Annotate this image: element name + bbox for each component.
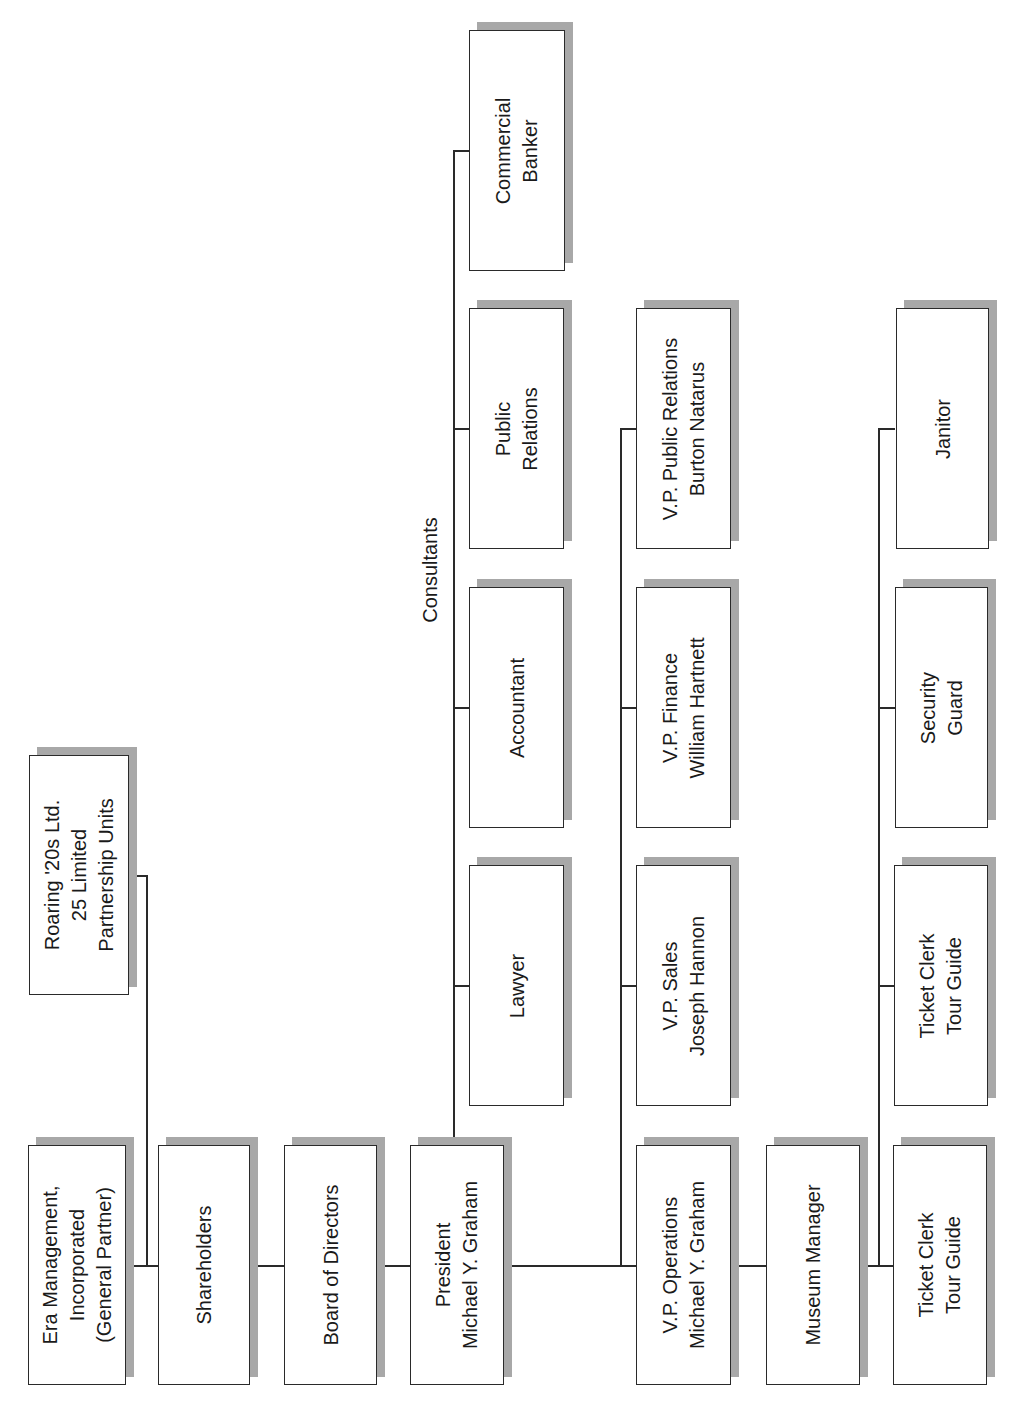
connector-vp-finance bbox=[620, 707, 637, 709]
staff-trunk-line bbox=[878, 428, 880, 1266]
node-president: President Michael Y. Graham bbox=[410, 1145, 504, 1385]
node-board-of-directors: Board of Directors bbox=[284, 1145, 377, 1385]
connector-janitor bbox=[878, 428, 895, 430]
node-security-guard: Security Guard bbox=[895, 587, 988, 828]
node-label: V.P. Public Relations Burton Natarus bbox=[657, 337, 711, 519]
node-label: V.P. Sales Joseph Hannon bbox=[657, 915, 711, 1055]
org-chart: Era Management, Incorporated (General Pa… bbox=[0, 0, 1020, 1424]
node-label: Janitor bbox=[929, 398, 956, 458]
node-label: V.P. Finance William Hartnett bbox=[657, 637, 711, 778]
node-label: Era Management, Incorporated (General Pa… bbox=[37, 1186, 118, 1345]
node-janitor: Janitor bbox=[896, 308, 989, 549]
node-label: Roaring '20s Ltd. 25 Limited Partnership… bbox=[39, 798, 120, 951]
node-vp-finance: V.P. Finance William Hartnett bbox=[636, 587, 731, 828]
connector-vp-pr bbox=[620, 428, 637, 430]
node-label: Shareholders bbox=[191, 1206, 218, 1325]
connector-public-relations bbox=[453, 428, 470, 430]
node-label: Security Guard bbox=[915, 671, 969, 743]
consultants-trunk-line bbox=[453, 150, 455, 1145]
node-label: Public Relations bbox=[490, 387, 544, 470]
node-label: Commercial Banker bbox=[490, 97, 544, 204]
node-label: Lawyer bbox=[503, 953, 530, 1017]
limited-partner-connector-h bbox=[129, 875, 147, 877]
node-vp-operations: V.P. Operations Michael Y. Graham bbox=[636, 1145, 731, 1385]
node-accountant: Accountant bbox=[469, 587, 564, 828]
node-vp-sales: V.P. Sales Joseph Hannon bbox=[636, 865, 731, 1106]
connector-accountant bbox=[453, 707, 470, 709]
vp-trunk-line bbox=[620, 428, 622, 1266]
node-label: V.P. Operations Michael Y. Graham bbox=[657, 1181, 711, 1349]
node-ticket-clerk-2: Ticket Clerk Tour Guide bbox=[894, 865, 988, 1106]
node-label: Museum Manager bbox=[800, 1184, 827, 1345]
node-label: Board of Directors bbox=[317, 1184, 344, 1345]
node-label: Ticket Clerk Tour Guide bbox=[914, 933, 968, 1038]
node-roaring-20s: Roaring '20s Ltd. 25 Limited Partnership… bbox=[29, 755, 129, 995]
node-label: Accountant bbox=[503, 657, 530, 757]
node-commercial-banker: Commercial Banker bbox=[469, 30, 565, 271]
connector-ticket-clerk-2 bbox=[878, 985, 895, 987]
connector-commercial-banker bbox=[453, 150, 470, 152]
node-museum-manager: Museum Manager bbox=[766, 1145, 860, 1385]
consultants-group-label: Consultants bbox=[419, 517, 442, 623]
connector-security-guard bbox=[878, 707, 895, 709]
node-era-management: Era Management, Incorporated (General Pa… bbox=[28, 1145, 126, 1385]
node-label: Ticket Clerk Tour Guide bbox=[913, 1213, 967, 1318]
connector-lawyer bbox=[453, 985, 470, 987]
node-vp-public-relations: V.P. Public Relations Burton Natarus bbox=[636, 308, 731, 549]
connector-vp-sales bbox=[620, 985, 637, 987]
limited-partner-connector-v bbox=[146, 875, 148, 1266]
node-label: President Michael Y. Graham bbox=[430, 1181, 484, 1349]
node-public-relations: Public Relations bbox=[469, 308, 564, 549]
node-shareholders: Shareholders bbox=[158, 1145, 250, 1385]
node-lawyer: Lawyer bbox=[469, 865, 564, 1106]
node-ticket-clerk-1: Ticket Clerk Tour Guide bbox=[893, 1145, 987, 1385]
